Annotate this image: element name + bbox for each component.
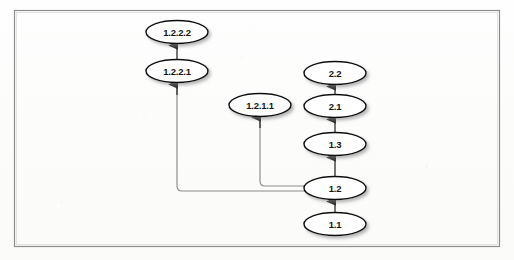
- node-2-2-label: 2.2: [329, 68, 342, 79]
- page-border: [15, 11, 500, 247]
- node-1-2-label: 1.2: [329, 183, 342, 194]
- node-1-2-1-1-label: 1.2.1.1: [246, 100, 275, 111]
- node-1-2-2-2[interactable]: 1.2.2.2: [146, 21, 208, 44]
- figure-root: 1.2.2.2 1.2.2.1 1.2.1.1 2.2 2.1 1.3: [0, 0, 514, 260]
- node-2-1[interactable]: 2.1: [304, 95, 366, 118]
- node-2-2[interactable]: 2.2: [304, 62, 366, 85]
- node-1-2[interactable]: 1.2: [304, 177, 366, 200]
- node-1-3[interactable]: 1.3: [304, 133, 366, 156]
- node-1-2-2-1-label: 1.2.2.1: [163, 66, 192, 77]
- node-1-1-label: 1.1: [329, 219, 343, 230]
- node-layer: 1.2.2.2 1.2.2.1 1.2.1.1 2.2 2.1 1.3: [146, 21, 366, 236]
- revision-tree-diagram: 1.2.2.2 1.2.2.1 1.2.1.1 2.2 2.1 1.3: [0, 0, 514, 260]
- node-1-2-1-1[interactable]: 1.2.1.1: [229, 94, 291, 117]
- node-1-1[interactable]: 1.1: [304, 213, 366, 236]
- edge-1-2-to-1-2-1-1: [260, 118, 305, 186]
- node-2-1-label: 2.1: [329, 101, 343, 112]
- page-border-inner-tint: [17, 13, 498, 245]
- node-1-2-2-1[interactable]: 1.2.2.1: [146, 60, 208, 83]
- node-1-3-label: 1.3: [329, 139, 342, 150]
- node-1-2-2-2-label: 1.2.2.2: [163, 27, 191, 38]
